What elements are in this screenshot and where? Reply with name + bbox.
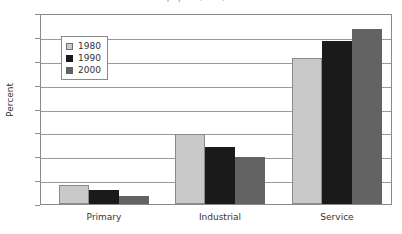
legend-item-1990: 1990: [66, 52, 101, 64]
y-tick-mark: [35, 133, 40, 134]
legend-item-1980: 1980: [66, 40, 101, 52]
bar-group-service: [292, 15, 382, 204]
x-label-primary: Primary: [59, 212, 149, 222]
y-tick-mark: [35, 62, 40, 63]
bar-2000-primary: [119, 196, 149, 204]
bar-group-industrial: [175, 15, 265, 204]
legend-label: 1980: [78, 42, 101, 51]
y-tick-mark: [35, 14, 40, 15]
bar-1990-industrial: [205, 147, 235, 204]
legend-label: 2000: [78, 66, 101, 75]
y-tick-mark: [35, 38, 40, 39]
y-tick-mark: [35, 110, 40, 111]
bar-1980-service: [292, 58, 322, 205]
legend-swatch-icon-2000: [66, 67, 73, 74]
chart-title: ...of total employment, 1980, 1990 and 2…: [0, 0, 402, 2]
y-axis-title: Percent: [5, 70, 15, 130]
y-tick-mark: [35, 86, 40, 87]
bar-1990-primary: [89, 190, 119, 204]
legend-item-2000: 2000: [66, 64, 101, 76]
legend-swatch-icon-1980: [66, 43, 73, 50]
bar-2000-industrial: [235, 157, 265, 204]
bar-1990-service: [322, 41, 352, 204]
x-label-industrial: Industrial: [175, 212, 265, 222]
legend-swatch-icon-1990: [66, 55, 73, 62]
y-tick-mark: [35, 157, 40, 158]
y-tick-mark: [35, 205, 40, 206]
bar-1980-industrial: [175, 134, 205, 204]
bar-chart: ...of total employment, 1980, 1990 and 2…: [0, 0, 402, 234]
y-axis: 80 70 60 50 40 30 20 10 0 Percent: [0, 0, 40, 220]
bar-1980-primary: [59, 185, 89, 204]
legend: 1980 1990 2000: [61, 36, 108, 80]
y-tick-mark: [35, 181, 40, 182]
x-label-service: Service: [292, 212, 382, 222]
bar-2000-service: [352, 29, 382, 204]
legend-label: 1990: [78, 54, 101, 63]
